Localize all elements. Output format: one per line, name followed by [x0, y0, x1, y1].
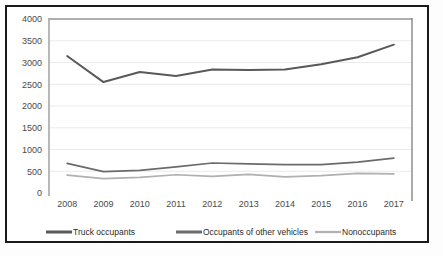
y-tick-label: 0: [37, 188, 42, 198]
chart-legend: Truck occupantsOccupants of other vehicl…: [46, 227, 396, 237]
line-chart: 0500100015002000250030003500400020082009…: [0, 0, 443, 256]
x-tick-label: 2015: [311, 199, 331, 209]
x-tick-label: 2017: [384, 199, 404, 209]
legend-label-occupants-of-other-vehicles[interactable]: Occupants of other vehicles: [203, 227, 308, 237]
y-tick-label: 1500: [22, 123, 42, 133]
y-tick-label: 3500: [22, 36, 42, 46]
y-tick-label: 4000: [22, 14, 42, 24]
y-tick-label: 2500: [22, 80, 42, 90]
y-tick-label: 500: [27, 167, 42, 177]
chart-figure: 0500100015002000250030003500400020082009…: [0, 0, 443, 256]
x-tick-label: 2008: [57, 199, 77, 209]
x-tick-label: 2016: [348, 199, 368, 209]
y-tick-label: 2000: [22, 101, 42, 111]
legend-label-nonoccupants[interactable]: Nonoccupants: [342, 227, 396, 237]
x-tick-label: 2014: [275, 199, 295, 209]
x-tick-label: 2009: [93, 199, 113, 209]
legend-label-truck-occupants[interactable]: Truck occupants: [73, 227, 135, 237]
y-axis-tick-labels: 05001000150020002500300035004000: [22, 14, 42, 198]
x-tick-label: 2010: [130, 199, 150, 209]
x-axis-tick-labels: 2008200920102011201220132014201520162017: [57, 199, 404, 209]
y-tick-label: 3000: [22, 58, 42, 68]
y-tick-label: 1000: [22, 145, 42, 155]
x-tick-label: 2011: [166, 199, 185, 209]
x-tick-label: 2013: [239, 199, 259, 209]
x-tick-label: 2012: [202, 199, 222, 209]
